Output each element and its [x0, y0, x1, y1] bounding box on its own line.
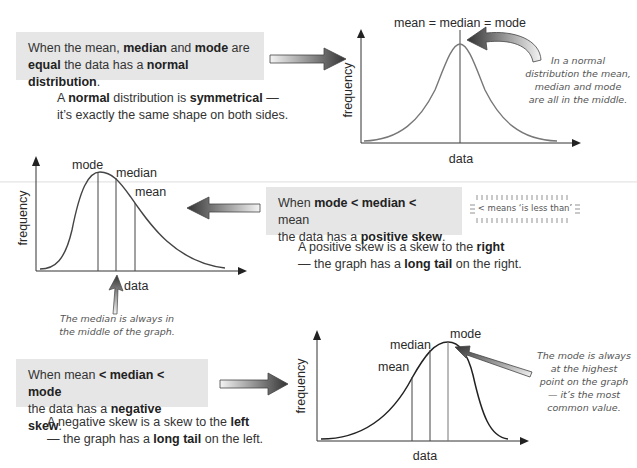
- text: A: [57, 91, 68, 105]
- positive-expl-line-2: — the graph has a long tail on the right…: [298, 256, 558, 273]
- note-line: are all in the middle.: [520, 93, 636, 106]
- positive-explanation: A positive skew is a skew to the right —…: [298, 239, 558, 273]
- less-than-note: < means ‘is less than’: [469, 193, 581, 225]
- normal-explanation: A normal distribution is symmetrical — i…: [57, 90, 297, 124]
- term-left: left: [230, 415, 249, 429]
- mode-label: mode: [72, 158, 103, 172]
- text: A negative skew is a skew to the: [47, 415, 230, 429]
- note-line: point on the graph: [532, 375, 636, 388]
- note-line: — it’s the most: [532, 388, 636, 401]
- term-normal: normal: [68, 91, 110, 105]
- text: — the graph has a: [298, 257, 404, 271]
- arrow-up-icon: [106, 274, 126, 316]
- term-median: median: [123, 41, 167, 55]
- positive-box-line-1: When mode < median < mean: [278, 195, 450, 229]
- text: When: [28, 368, 64, 382]
- term-mean: mean: [278, 213, 309, 227]
- note-line: In a normal: [520, 54, 636, 67]
- normal-definition-box: When the mean, median and mode are equal…: [16, 32, 264, 80]
- text: on the right.: [452, 257, 522, 271]
- term-median: median: [110, 368, 154, 382]
- y-axis-label: frequency: [295, 358, 308, 414]
- x-axis-label: data: [124, 279, 148, 290]
- text: A positive skew is a skew to the: [298, 240, 477, 254]
- term-mean: mean: [85, 41, 116, 55]
- note-line: distribution the mean,: [520, 67, 636, 80]
- positive-definition-box: When mode < median < mean the data has a…: [266, 187, 462, 235]
- normal-expl-line-2: it’s exactly the same shape on both side…: [57, 107, 297, 124]
- note-line: The median is always in: [52, 312, 182, 325]
- text: <: [95, 368, 109, 382]
- mean-label: mean: [378, 360, 409, 374]
- term-mean: mean: [64, 368, 95, 382]
- normal-box-line-2: equal the data has a normal distribution…: [28, 57, 252, 91]
- text: —: [263, 91, 279, 105]
- negative-definition-box: When mean < median < mode the data has a…: [16, 359, 208, 407]
- term-long-tail: long tail: [153, 432, 201, 446]
- positive-expl-line-1: A positive skew is a skew to the right: [298, 239, 558, 256]
- text: distribution is: [110, 91, 190, 105]
- text: the data has a: [61, 58, 147, 72]
- term-long-tail: long tail: [404, 257, 452, 271]
- arrow-right-icon: [218, 372, 290, 396]
- y-axis-label: frequency: [341, 62, 355, 118]
- note-line: common value.: [532, 401, 636, 414]
- negative-explanation: A negative skew is a skew to the left — …: [47, 414, 307, 448]
- term-mode: mode: [195, 41, 228, 55]
- note-line: The mode is always: [532, 349, 636, 362]
- mode-label: mode: [450, 327, 481, 341]
- text: on the left.: [201, 432, 263, 446]
- term-right: right: [477, 240, 505, 254]
- term-mode-median: mode < median <: [314, 196, 416, 210]
- negative-skew-graph: mean median mode frequency data: [295, 320, 555, 468]
- text: are: [228, 41, 250, 55]
- note-line: the middle of the graph.: [52, 325, 182, 338]
- x-axis-label: data: [449, 152, 473, 165]
- arrow-left-icon: [185, 196, 263, 220]
- normal-expl-line-1: A normal distribution is symmetrical —: [57, 90, 297, 107]
- text: <: [153, 368, 164, 382]
- x-axis-label: data: [413, 449, 437, 463]
- positive-note: The median is always in the middle of th…: [52, 312, 182, 338]
- negative-expl-line-2: — the graph has a long tail on the left.: [47, 431, 307, 448]
- median-label: median: [116, 166, 157, 180]
- median-label: median: [390, 338, 431, 352]
- text: When the: [28, 41, 85, 55]
- negative-note: The mode is always at the highest point …: [532, 349, 636, 414]
- mean-median-mode-label: mean = median = mode: [394, 16, 526, 30]
- note-line: median and mode: [520, 80, 636, 93]
- normal-note: In a normal distribution the mean, media…: [520, 54, 636, 106]
- note-line: at the highest: [532, 362, 636, 375]
- term-symmetrical: symmetrical: [190, 91, 263, 105]
- text: and: [167, 41, 195, 55]
- negative-box-line-1: When mean < median < mode: [28, 367, 196, 401]
- normal-box-line-1: When the mean, median and mode are: [28, 40, 252, 57]
- y-axis-label: frequency: [16, 190, 30, 246]
- negative-expl-line-1: A negative skew is a skew to the left: [47, 414, 307, 431]
- text: — the graph has a: [47, 432, 153, 446]
- mean-label: mean: [135, 185, 166, 199]
- text: When: [278, 196, 314, 210]
- text: .: [97, 75, 100, 89]
- less-than-text: < means ‘is less than’: [469, 203, 581, 213]
- term-equal: equal: [28, 58, 61, 72]
- term-mode: mode: [28, 385, 61, 399]
